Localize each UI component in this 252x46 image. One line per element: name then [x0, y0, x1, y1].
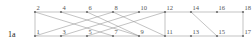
- graph-node: [34, 35, 36, 37]
- graph-node: [242, 11, 244, 13]
- graph-diagram: 123456789101112131415161718: [0, 0, 252, 46]
- graph-node: [34, 11, 36, 13]
- graph-node: [86, 11, 88, 13]
- graph-node-label: 5: [89, 28, 92, 35]
- figure-container: 1a 123456789101112131415161718: [0, 0, 252, 46]
- graph-node-label: 2: [37, 4, 40, 11]
- edges-layer: [35, 12, 243, 36]
- graph-node: [112, 11, 114, 13]
- graph-node-label: 15: [219, 28, 226, 35]
- graph-edge: [87, 12, 139, 36]
- graph-node-label: 8: [115, 4, 118, 11]
- graph-node: [60, 11, 62, 13]
- graph-node-label: 18: [245, 4, 252, 11]
- graph-node: [86, 35, 88, 37]
- graph-node-label: 11: [167, 28, 173, 35]
- graph-node: [242, 35, 244, 37]
- graph-node-label: 9: [141, 28, 144, 35]
- graph-node: [216, 11, 218, 13]
- graph-node: [138, 11, 140, 13]
- graph-node-label: 4: [63, 4, 67, 11]
- graph-edge: [113, 12, 165, 36]
- graph-node: [190, 35, 192, 37]
- graph-node: [164, 35, 166, 37]
- graph-node-label: 1: [37, 28, 40, 35]
- graph-node-label: 3: [63, 28, 66, 35]
- graph-node: [216, 35, 218, 37]
- graph-node: [60, 35, 62, 37]
- graph-node-label: 6: [89, 4, 93, 11]
- graph-node: [190, 11, 192, 13]
- graph-node-label: 16: [219, 4, 226, 11]
- graph-edge: [87, 12, 165, 36]
- graph-node: [112, 35, 114, 37]
- graph-node-label: 14: [193, 4, 200, 11]
- graph-node-label: 10: [141, 4, 148, 11]
- graph-node-label: 7: [115, 28, 119, 35]
- graph-node: [138, 35, 140, 37]
- graph-node-label: 17: [245, 28, 252, 35]
- graph-node: [164, 11, 166, 13]
- graph-node-label: 12: [167, 4, 174, 11]
- node-labels-layer: 123456789101112131415161718: [37, 4, 252, 35]
- graph-node-label: 13: [193, 28, 200, 35]
